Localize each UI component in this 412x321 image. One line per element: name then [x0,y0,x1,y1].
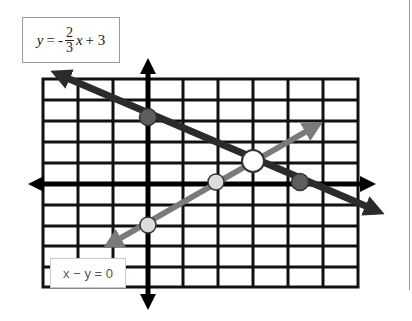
point-line2-y-intercept [140,217,156,233]
equation-label-line2: x − y = 0 [50,258,126,288]
equation-label-line1: y = - 2 3 x + 3 [22,17,120,63]
graph-diagram: y = - 2 3 x + 3 x − y = 0 [0,0,412,321]
point-line2-a [208,174,224,190]
point-intersection [242,150,264,172]
eq1-rest: + 3 [86,32,106,49]
point-x-intercept-line1 [292,174,309,191]
eq1-sign: - [58,32,63,49]
eq1-fraction: 2 3 [65,26,74,55]
eq1-denominator: 3 [66,41,73,55]
eq1-lhs: y [37,32,44,49]
eq1-equals: = [46,32,54,49]
right-edge-divider [409,0,410,290]
eq1-numerator: 2 [65,26,74,41]
point-y-intercept-line1 [140,109,157,126]
eq1-var: x [76,32,83,49]
